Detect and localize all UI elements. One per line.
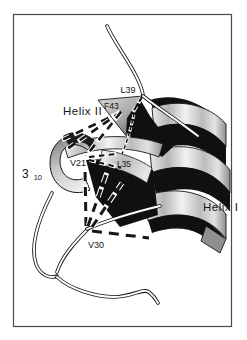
ribbon-diagram-svg: Helix II Helix I L39 F43 V21 L35 V30 3 1… <box>0 0 247 340</box>
residue-label-v30: V30 <box>88 240 104 250</box>
residue-label-l39: L39 <box>120 85 135 95</box>
residue-label-f43: F43 <box>104 101 119 111</box>
residue-label-l35: L35 <box>117 159 131 169</box>
residue-label-v21: V21 <box>70 158 86 168</box>
figure-panel: Helix II Helix I L39 F43 V21 L35 V30 3 1… <box>0 0 247 340</box>
helix1-label: Helix I <box>203 201 238 213</box>
helix2-label: Helix II <box>63 105 102 117</box>
